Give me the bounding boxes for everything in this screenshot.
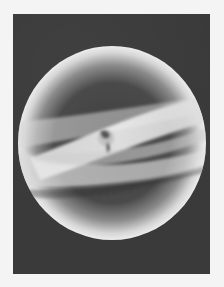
- artwork: [0, 0, 224, 287]
